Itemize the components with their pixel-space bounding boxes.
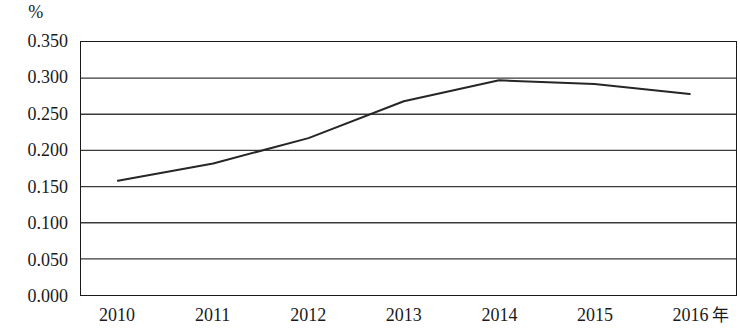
y-tick-label: 0.150 [0,178,68,196]
y-tick-label: 0.300 [0,68,68,86]
gridlines-group [81,78,736,259]
x-axis-tick-labels: 年 2010201120122013201420152016 [0,304,740,333]
x-tick-label: 2012 [273,304,343,326]
x-tick-label: 2014 [464,304,534,326]
y-tick-label: 0.250 [0,105,68,123]
plot-svg [81,42,736,295]
y-tick-label: 0.100 [0,214,68,232]
y-tick-label: 0.000 [0,287,68,305]
x-tick-label: 2013 [369,304,439,326]
y-axis-tick-labels: 0.0000.0500.1000.1500.2000.2500.3000.350 [0,0,74,333]
plot-area [80,41,737,296]
x-tick-label: 2015 [560,304,630,326]
x-tick-label: 2016 [656,304,726,326]
data-series-line [118,80,690,180]
x-tick-label: 2010 [82,304,152,326]
y-tick-label: 0.350 [0,32,68,50]
y-tick-label: 0.050 [0,251,68,269]
line-chart: % 0.0000.0500.1000.1500.2000.2500.3000.3… [0,0,740,333]
y-tick-label: 0.200 [0,141,68,159]
x-tick-label: 2011 [178,304,248,326]
